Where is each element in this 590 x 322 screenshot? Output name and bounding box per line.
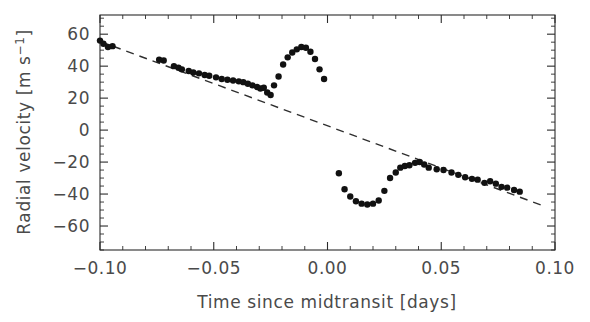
data-point <box>190 69 196 75</box>
y-axis-title-main: Radial velocity [m s <box>14 55 34 234</box>
y-tick-label-4: −20 <box>53 152 90 172</box>
data-point <box>493 180 499 186</box>
data-point <box>161 57 167 63</box>
data-point <box>370 200 376 206</box>
data-point <box>448 169 454 175</box>
data-point <box>387 175 393 181</box>
x-tick-label-1: −0.05 <box>186 258 241 278</box>
data-point <box>462 174 468 180</box>
data-point <box>498 184 504 190</box>
x-axis-title: Time since midtransit [days] <box>196 292 456 312</box>
data-point <box>406 162 412 168</box>
data-point <box>179 66 185 72</box>
y-axis-tick-labels: 6040200−20−40−60 <box>53 24 90 236</box>
data-point <box>434 166 440 172</box>
x-axis-major-ticks <box>100 15 555 250</box>
x-axis-tick-labels: −0.10−0.050.000.050.10 <box>73 258 575 278</box>
radial-velocity-plot: −0.10−0.050.000.050.10 6040200−20−40−60 … <box>0 0 590 322</box>
data-point <box>347 193 353 199</box>
data-point <box>481 180 487 186</box>
y-tick-label-3: 0 <box>79 120 90 140</box>
data-point <box>358 200 364 206</box>
data-point <box>426 164 432 170</box>
data-point <box>312 56 318 62</box>
y-tick-label-1: 40 <box>67 56 90 76</box>
data-point <box>206 73 212 79</box>
data-point <box>393 169 399 175</box>
data-point <box>109 43 115 49</box>
x-tick-label-4: 0.10 <box>535 258 575 278</box>
data-point <box>284 54 290 60</box>
data-point <box>316 66 322 72</box>
data-point <box>196 70 202 76</box>
data-point <box>213 74 219 80</box>
x-tick-label-0: −0.10 <box>73 258 128 278</box>
data-point <box>504 184 510 190</box>
data-point <box>271 82 277 88</box>
y-tick-label-2: 20 <box>67 88 90 108</box>
data-point <box>321 76 327 82</box>
data-point <box>469 176 475 182</box>
y-axis-title-group: Radial velocity [m s−1] <box>13 29 34 234</box>
data-point <box>307 49 313 55</box>
x-tick-label-2: 0.00 <box>308 258 348 278</box>
data-point <box>375 197 381 203</box>
data-point <box>353 198 359 204</box>
data-point <box>511 187 517 193</box>
data-point <box>219 76 225 82</box>
plot-frame <box>100 15 555 250</box>
data-point-series <box>97 37 523 207</box>
figure-container: −0.10−0.050.000.050.10 6040200−20−40−60 … <box>0 0 590 322</box>
data-point <box>275 73 281 79</box>
data-point <box>474 176 480 182</box>
y-axis-title-exponent: −1 <box>13 37 27 56</box>
data-point <box>267 92 273 98</box>
y-tick-label-0: 60 <box>67 24 90 44</box>
data-point <box>341 186 347 192</box>
data-point <box>487 178 493 184</box>
y-axis-title: Radial velocity [m s−1] <box>13 29 34 234</box>
data-point <box>224 77 230 83</box>
data-point <box>455 172 461 178</box>
y-tick-label-6: −60 <box>53 216 90 236</box>
data-point <box>230 77 236 83</box>
data-point <box>517 188 523 194</box>
y-axis-title-closing-bracket: ] <box>14 29 34 36</box>
y-axis-minor-ticks <box>100 18 555 250</box>
data-point <box>381 188 387 194</box>
data-point <box>364 201 370 207</box>
data-point <box>336 170 342 176</box>
data-point <box>280 61 286 67</box>
x-tick-label-3: 0.05 <box>421 258 461 278</box>
y-tick-label-5: −40 <box>53 184 90 204</box>
y-axis-major-ticks <box>100 34 555 226</box>
data-point <box>440 167 446 173</box>
x-axis-minor-ticks <box>123 15 533 250</box>
